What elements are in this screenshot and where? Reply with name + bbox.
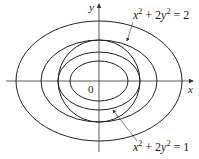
bottom-leader-line [113, 110, 137, 141]
x-axis-label: x [187, 83, 193, 95]
label-bottom-equation: x2 + 2y2 = 1 [132, 139, 189, 154]
label-top-equation: x2 + 2y2 = 2 [132, 7, 189, 22]
level-curves-diagram: y x 0 x2 + 2y2 = 2 x2 + 2y2 = 1 [0, 0, 199, 159]
y-axis-label: y [88, 1, 94, 13]
origin-label: 0 [88, 83, 94, 95]
